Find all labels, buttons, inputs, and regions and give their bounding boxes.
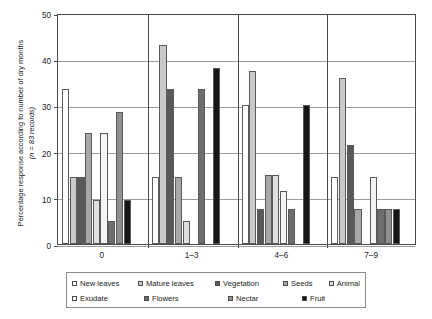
bar xyxy=(124,200,131,244)
legend-item: New leaves xyxy=(72,279,138,288)
bar xyxy=(100,133,107,244)
bar xyxy=(249,71,256,244)
bar xyxy=(331,177,338,244)
bar xyxy=(93,200,100,244)
bar xyxy=(377,209,384,244)
gridline xyxy=(58,246,415,247)
bar xyxy=(385,209,392,244)
y-axis-title-line2: (n = 83 records) xyxy=(27,107,36,159)
legend-swatch xyxy=(283,281,288,286)
bar-chart: Percentage response according to number … xyxy=(0,0,432,319)
bar xyxy=(354,209,361,244)
bar xyxy=(116,112,123,244)
legend-label: Exudate xyxy=(80,294,108,303)
legend-swatch xyxy=(72,281,77,286)
bar-group xyxy=(327,15,421,244)
legend-swatch xyxy=(215,281,220,286)
y-axis-title: Percentage response according to number … xyxy=(0,0,34,272)
bar xyxy=(347,145,354,244)
x-axis-tick-label: 7–9 xyxy=(364,251,378,260)
y-axis-tick-label: 30 xyxy=(42,103,51,112)
legend-swatch xyxy=(329,281,334,286)
legend-row-1: New leavesMature leavesVegetationSeedsAn… xyxy=(72,276,360,291)
y-axis-tick-label: 20 xyxy=(42,149,51,158)
y-axis-tick-label: 40 xyxy=(42,57,51,66)
legend-label: Mature leaves xyxy=(146,279,194,288)
legend-label: New leaves xyxy=(80,279,119,288)
legend-label: Vegetation xyxy=(223,279,259,288)
x-axis-tick-label: 4–6 xyxy=(275,251,289,260)
bar xyxy=(85,133,92,244)
y-axis-title-line1: Percentage response according to number … xyxy=(16,40,25,227)
bar xyxy=(159,45,166,244)
plot-area: 01020304050 xyxy=(57,14,416,245)
bar xyxy=(257,209,264,244)
bar xyxy=(393,209,400,244)
x-axis-tick-label: 1–3 xyxy=(185,251,199,260)
legend-item: Exudate xyxy=(72,294,144,303)
legend-item: Animal xyxy=(329,279,360,288)
bar xyxy=(280,191,287,244)
bar xyxy=(272,175,279,244)
y-axis-tick-label: 50 xyxy=(42,11,51,20)
legend-item: Seeds xyxy=(283,279,329,288)
bar-group xyxy=(148,15,242,244)
y-axis-tick xyxy=(54,246,58,247)
bar-group xyxy=(238,15,332,244)
legend-label: Flowers xyxy=(152,294,179,303)
legend-swatch xyxy=(302,296,307,301)
legend-label: Seeds xyxy=(291,279,313,288)
bar xyxy=(198,89,205,244)
bar xyxy=(70,177,77,244)
legend-swatch xyxy=(72,296,77,301)
bar xyxy=(265,175,272,244)
legend-item: Nectar xyxy=(228,294,302,303)
bar xyxy=(167,89,174,244)
group-separator xyxy=(148,15,149,248)
legend-item: Flowers xyxy=(144,294,228,303)
x-axis-tick-label: 0 xyxy=(100,251,105,260)
legend-swatch xyxy=(228,296,233,301)
legend-item: Fruit xyxy=(302,294,352,303)
bar xyxy=(213,68,220,244)
bar xyxy=(370,177,377,244)
bar xyxy=(62,89,69,244)
group-separator xyxy=(238,15,239,248)
bar xyxy=(108,221,115,244)
bar xyxy=(288,209,295,244)
y-axis-tick-label: 0 xyxy=(46,242,51,251)
bar xyxy=(183,221,190,244)
legend-swatch xyxy=(144,296,149,301)
legend-label: Animal xyxy=(337,279,360,288)
legend-label: Nectar xyxy=(236,294,258,303)
bar xyxy=(77,177,84,244)
legend-item: Mature leaves xyxy=(138,279,215,288)
bar xyxy=(339,78,346,244)
legend-swatch xyxy=(138,281,143,286)
bar xyxy=(175,177,182,244)
bar xyxy=(242,105,249,244)
y-axis-tick-label: 10 xyxy=(42,195,51,204)
legend: New leavesMature leavesVegetationSeedsAn… xyxy=(66,272,366,308)
bars-layer xyxy=(58,15,415,244)
bar xyxy=(303,105,310,244)
group-separator xyxy=(327,15,328,248)
bar xyxy=(152,177,159,244)
bar-group xyxy=(58,15,152,244)
legend-row-2: ExudateFlowersNectarFruit xyxy=(72,291,360,306)
legend-label: Fruit xyxy=(310,294,325,303)
legend-item: Vegetation xyxy=(215,279,283,288)
